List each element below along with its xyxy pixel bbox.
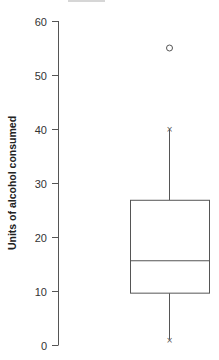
y-tick-label: 30	[35, 178, 47, 190]
y-axis-title: Units of alcohol consumed	[6, 116, 18, 250]
y-tick-label: 0	[41, 340, 47, 352]
y-axis-ticks: 0102030405060	[35, 16, 59, 352]
box-plot-series: × ×	[131, 45, 210, 345]
outlier-points	[167, 45, 173, 51]
upper-whisker-end-marker: ×	[166, 125, 173, 134]
y-tick-label: 10	[35, 286, 47, 298]
y-tick-label: 20	[35, 232, 47, 244]
y-tick-label: 50	[35, 70, 47, 82]
lower-whisker-end-marker: ×	[166, 336, 173, 345]
outlier-point	[167, 45, 173, 51]
y-tick-label: 40	[35, 124, 47, 136]
box-plot-chart: Units of alcohol consumed 0102030405060 …	[0, 0, 219, 360]
y-tick-label: 60	[35, 16, 47, 28]
interquartile-box	[131, 200, 210, 293]
